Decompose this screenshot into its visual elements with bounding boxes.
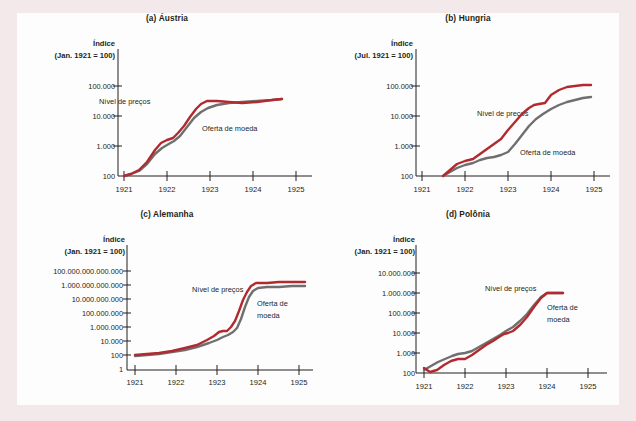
series-line-money-polonia: [424, 293, 563, 370]
plot-area-alemanha: [17, 209, 317, 405]
panel-austria: (a) Áustria Índice (Jan. 1921 = 100) 100…: [17, 13, 317, 209]
series-line-money-alemanha: [135, 286, 305, 356]
panel-alemanha: (c) Alemanha Índice (Jan. 1921 = 100) 10…: [17, 209, 317, 405]
series-line-price-alemanha: [135, 282, 305, 355]
series-line-money-hungria: [443, 97, 591, 176]
series-line-price-hungria: [443, 85, 591, 176]
panel-hungria: (b) Hungria Índice (Jul. 1921 = 100) 100…: [317, 13, 619, 209]
panel-polonia: (d) Polônia Índice (Jan. 1921 = 100) 10.…: [317, 209, 619, 405]
series-line-money-austria: [124, 99, 282, 176]
plot-area-hungria: [317, 13, 619, 209]
plot-area-austria: [17, 13, 317, 209]
plot-area-polonia: [317, 209, 619, 405]
figure-root: (a) Áustria Índice (Jan. 1921 = 100) 100…: [0, 0, 636, 421]
figure-canvas: (a) Áustria Índice (Jan. 1921 = 100) 100…: [17, 13, 619, 405]
